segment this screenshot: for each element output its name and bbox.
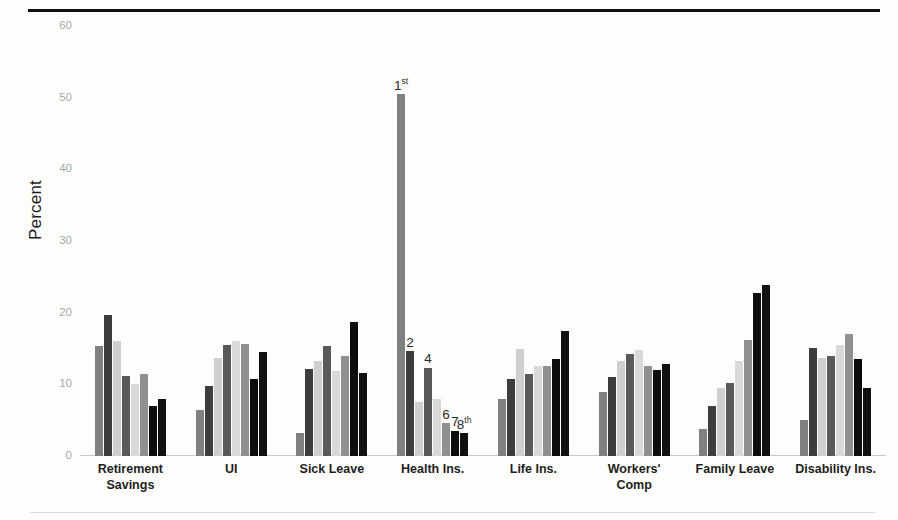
bar[interactable] [223, 345, 231, 456]
bar[interactable] [635, 350, 643, 456]
category-label: Health Ins. [382, 462, 483, 478]
category-label-line: Health Ins. [382, 462, 483, 478]
bar[interactable] [662, 364, 670, 456]
bar[interactable] [415, 402, 423, 456]
bar[interactable] [250, 379, 258, 456]
category-label: Life Ins. [483, 462, 584, 478]
bar[interactable] [534, 366, 542, 456]
bar[interactable]: 7 [451, 431, 459, 456]
bar[interactable] [561, 331, 569, 456]
category-label-line: Savings [80, 478, 181, 494]
bar[interactable]: 2 [406, 351, 414, 456]
bar[interactable] [196, 410, 204, 456]
bar[interactable] [158, 399, 166, 456]
category-label-line: Life Ins. [483, 462, 584, 478]
bar[interactable] [845, 334, 853, 456]
bar[interactable] [122, 376, 130, 456]
bar[interactable] [708, 406, 716, 456]
bar[interactable] [818, 358, 826, 456]
bar[interactable] [836, 345, 844, 456]
bar-rank-label: 1st [394, 77, 408, 92]
category-label-line: Sick Leave [282, 462, 383, 478]
bar[interactable] [800, 420, 808, 456]
bar[interactable] [359, 373, 367, 456]
bar[interactable] [305, 369, 313, 456]
bar-group [785, 26, 886, 456]
bar[interactable] [717, 388, 725, 456]
bar[interactable] [498, 399, 506, 456]
bar[interactable] [699, 429, 707, 456]
category-label-line: UI [181, 462, 282, 478]
y-tick-label: 60 [38, 20, 72, 32]
bar-rank-label: 8th [457, 416, 472, 431]
bar[interactable] [762, 285, 770, 456]
bar[interactable] [516, 349, 524, 456]
bar-rank-label: 2 [406, 336, 414, 350]
bar[interactable] [332, 371, 340, 456]
bar[interactable] [653, 370, 661, 456]
bar-rank-label: 6 [442, 408, 450, 422]
bar[interactable] [726, 383, 734, 456]
bar[interactable] [809, 348, 817, 456]
bar[interactable] [149, 406, 157, 456]
bar[interactable] [296, 433, 304, 456]
bar[interactable] [507, 379, 515, 456]
bar[interactable] [753, 293, 761, 456]
category-label: RetirementSavings [80, 462, 181, 493]
bar[interactable] [543, 366, 551, 456]
bar[interactable] [140, 374, 148, 456]
category-label: Disability Ins. [785, 462, 886, 478]
bar[interactable] [744, 340, 752, 456]
bar-group [181, 26, 282, 456]
bar[interactable] [341, 356, 349, 456]
bar-group [282, 26, 383, 456]
bar[interactable] [827, 356, 835, 456]
bar[interactable] [863, 388, 871, 456]
bar-group [584, 26, 685, 456]
category-label: Sick Leave [282, 462, 383, 478]
bar[interactable] [131, 384, 139, 456]
category-label-line: Retirement [80, 462, 181, 478]
rank-suffix: st [402, 76, 409, 86]
bar[interactable] [350, 322, 358, 456]
bar[interactable] [599, 392, 607, 457]
bar[interactable] [525, 374, 533, 456]
bar[interactable] [433, 399, 441, 456]
bar[interactable] [241, 344, 249, 456]
bar-rank-label: 4 [424, 352, 432, 366]
y-tick-label: 30 [38, 235, 72, 247]
bar[interactable]: 6 [442, 423, 450, 456]
bar[interactable] [608, 377, 616, 456]
bar[interactable] [95, 346, 103, 456]
category-label: UI [181, 462, 282, 478]
y-tick-label: 0 [38, 450, 72, 462]
chart-figure: Percent 0102030405060 1st24678th Retirem… [0, 0, 898, 520]
bar[interactable] [113, 341, 121, 456]
y-tick-label: 10 [38, 378, 72, 390]
bar[interactable] [205, 386, 213, 456]
bar[interactable] [232, 341, 240, 456]
bar[interactable]: 8th [460, 433, 468, 456]
bar[interactable] [854, 359, 862, 456]
bar[interactable] [323, 346, 331, 456]
bar[interactable] [626, 354, 634, 456]
bar-group [483, 26, 584, 456]
bar[interactable] [259, 352, 267, 456]
bar[interactable]: 1st [397, 94, 405, 456]
page-top-rule [28, 9, 880, 12]
bar[interactable] [104, 315, 112, 456]
rank-suffix: th [464, 415, 471, 425]
bar[interactable] [735, 361, 743, 456]
bar[interactable]: 4 [424, 368, 432, 456]
bar[interactable] [214, 358, 222, 456]
y-tick-label: 20 [38, 307, 72, 319]
plot-area: 1st24678th [80, 26, 886, 456]
y-tick-label: 40 [38, 163, 72, 175]
category-label: Workers'Comp [584, 462, 685, 493]
category-label-line: Workers' [584, 462, 685, 478]
bar[interactable] [552, 359, 560, 456]
category-label-line: Family Leave [685, 462, 786, 478]
bar[interactable] [644, 366, 652, 456]
bar[interactable] [617, 361, 625, 456]
bar[interactable] [314, 361, 322, 456]
